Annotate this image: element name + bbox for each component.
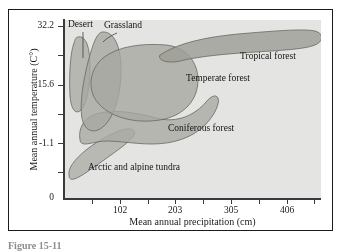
x-axis-tick-major-305: [231, 199, 232, 204]
x-axis-tick-label-203: 203: [168, 205, 182, 215]
x-axis-tick-minor-2: [148, 199, 149, 204]
y-axis-tick-label-32: 32.2: [37, 20, 54, 30]
y-axis-tick-minor-2: [58, 114, 63, 115]
biome-label-tropical-forest: Tropical forest: [240, 51, 296, 62]
x-axis-tick-label-305: 305: [224, 205, 238, 215]
y-axis-title: Mean annual temperature (C°): [28, 25, 39, 195]
x-axis-tick-minor-3: [203, 199, 204, 204]
x-axis-tick-major-102: [120, 199, 121, 204]
y-axis-tick-label-neg1: -1.1: [39, 138, 54, 148]
y-axis-tick-major-3: [58, 143, 63, 144]
x-axis-title: Mean annual precipitation (cm): [64, 216, 321, 227]
x-axis-tick-label-102: 102: [113, 205, 127, 215]
y-axis-tick-minor-1: [58, 55, 63, 56]
biome-label-grassland: Grassland: [104, 20, 142, 31]
x-axis-tick-minor-5: [314, 199, 315, 204]
biome-label-temperate-forest: Temperate forest: [186, 73, 250, 84]
x-axis-line: [63, 198, 321, 200]
y-axis-origin-label: 0: [49, 192, 54, 202]
figure-caption: Figure 15-11: [8, 240, 61, 251]
x-axis-tick-label-406: 406: [280, 205, 294, 215]
x-axis-tick-major-406: [287, 199, 288, 204]
biome-label-desert: Desert: [68, 19, 93, 30]
biome-label-arctic-and-alpine-tundra: Arctic and alpine tundra: [88, 162, 180, 173]
biome-label-coniferous-forest: Coniferous forest: [168, 123, 234, 134]
x-axis-tick-minor-1: [92, 199, 93, 204]
figure-root: 32.2 15.6 -1.1 0 102 203 305 406 Mean an…: [0, 0, 341, 251]
y-axis-tick-label-15: 15.6: [37, 79, 54, 89]
y-axis-tick-major-2: [58, 85, 63, 86]
x-axis-tick-major-203: [175, 199, 176, 204]
y-axis-tick-minor-3: [58, 172, 63, 173]
y-axis-tick-major-1: [58, 26, 63, 27]
x-axis-tick-minor-4: [259, 199, 260, 204]
y-axis-line: [63, 19, 65, 199]
